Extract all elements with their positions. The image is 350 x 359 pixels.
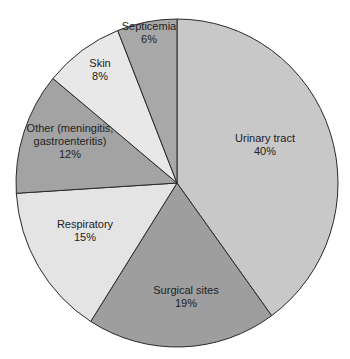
pie-chart: Urinary tract40%Surgical sites19%Respira…	[0, 0, 350, 359]
slice-label: Skin8%	[89, 57, 110, 82]
